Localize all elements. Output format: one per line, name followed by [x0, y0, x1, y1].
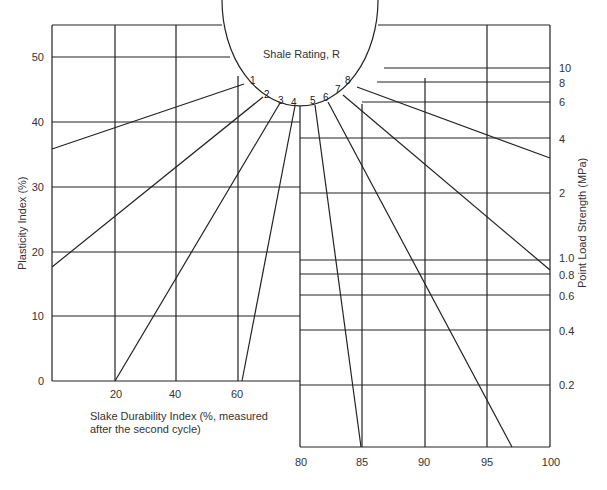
r-tick-4: 4 [559, 133, 565, 145]
r-tick-1-0: 1.0 [559, 252, 574, 264]
rating-label-8: 8 [345, 75, 351, 86]
r-tick-6: 6 [559, 96, 565, 108]
x-tick-80: 80 [295, 456, 307, 468]
y-tick-40: 40 [14, 116, 44, 128]
rating-line-5 [315, 105, 361, 447]
x-tick-60: 60 [231, 388, 243, 400]
x-tick-100: 100 [542, 456, 560, 468]
rating-label-2: 2 [264, 89, 270, 100]
rating-label-3: 3 [278, 95, 284, 106]
y-axis-label-right: Point Load Strength (MPa) [576, 158, 588, 288]
rating-label-7: 7 [335, 84, 341, 95]
x-axis-label-line1: Slake Durability Index (%, measured [90, 410, 268, 423]
r-tick-0-2: 0.2 [559, 379, 574, 391]
x-tick-20: 20 [110, 388, 122, 400]
y-tick-50: 50 [14, 51, 44, 63]
rating-line-3 [115, 103, 280, 381]
x-axis-label: Slake Durability Index (%, measured afte… [90, 410, 268, 436]
x-tick-40: 40 [169, 388, 181, 400]
rating-label-1: 1 [250, 75, 256, 86]
r-tick-10: 10 [559, 62, 571, 74]
x-tick-95: 95 [481, 456, 493, 468]
x-tick-90: 90 [418, 456, 430, 468]
y-tick-10: 10 [14, 310, 44, 322]
rating-line-8 [357, 87, 550, 158]
rating-line-7 [343, 95, 550, 270]
r-tick-0-8: 0.8 [559, 269, 574, 281]
r-tick-0-6: 0.6 [559, 290, 574, 302]
rating-line-4 [242, 106, 295, 381]
rating-label-6: 6 [323, 92, 329, 103]
rating-label-4: 4 [291, 97, 297, 108]
chart-title: Shale Rating, R [263, 48, 340, 60]
rating-label-5: 5 [310, 95, 316, 106]
x-tick-85: 85 [356, 456, 368, 468]
r-tick-2: 2 [559, 187, 565, 199]
x-axis-label-line2: after the second cycle) [90, 423, 268, 436]
r-tick-0-4: 0.4 [559, 325, 574, 337]
rating-line-1 [52, 84, 244, 149]
y-axis-label-left: Plasticity Index (%) [16, 176, 28, 270]
r-tick-8: 8 [559, 77, 565, 89]
y-tick-0: 0 [14, 375, 44, 387]
